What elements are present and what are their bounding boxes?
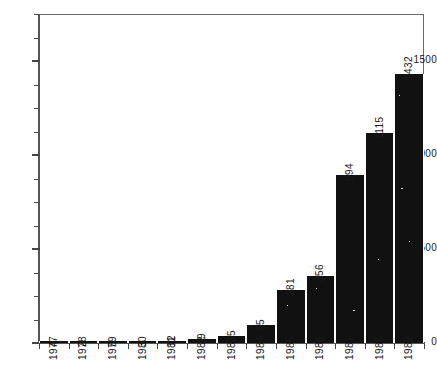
x-axis-tick: [128, 344, 129, 349]
bar-value-label: 281: [286, 278, 296, 296]
bar: [394, 74, 424, 343]
bar-value-label: 356: [315, 264, 325, 282]
bar-chart: 050010001500 425312193595281356894111514…: [0, 0, 437, 390]
x-axis-tick-label: 1989: [404, 336, 414, 360]
bar: [306, 276, 336, 343]
scan-artifact: [409, 241, 410, 242]
x-axis-tick: [69, 344, 70, 349]
x-axis-tick: [335, 344, 336, 349]
x-axis-tick: [98, 344, 99, 349]
scan-artifact: [390, 132, 391, 133]
x-axis-tick-label: 1982: [197, 336, 207, 360]
bar-value-label: 95: [256, 319, 266, 331]
bar: [335, 175, 365, 343]
x-axis-tick: [424, 344, 425, 349]
scan-artifact: [316, 288, 317, 289]
bar: [365, 133, 395, 343]
scan-artifact: [363, 96, 364, 98]
x-axis-tick: [394, 344, 395, 349]
x-axis-tick: [157, 344, 158, 349]
x-axis-tick-label: 1979: [108, 336, 118, 360]
scan-artifact: [353, 310, 355, 311]
x-axis-tick-label: 1984: [256, 336, 266, 360]
bar-value-label: 894: [345, 163, 355, 181]
x-axis-tick-label: 1983: [227, 336, 237, 360]
scan-artifact: [399, 95, 400, 96]
bar-value-label: 1115: [375, 117, 385, 139]
bars-layer: 42531219359528135689411151432: [0, 0, 437, 390]
x-axis-tick: [246, 344, 247, 349]
scan-artifact: [287, 305, 288, 306]
scan-artifact: [343, 120, 345, 121]
x-axis-tick: [306, 344, 307, 349]
x-axis-tick-label: 1981: [167, 336, 177, 360]
scan-artifact: [401, 188, 403, 189]
x-axis-tick-label: 1988: [375, 336, 385, 360]
x-axis-tick: [276, 344, 277, 349]
scan-artifact: [352, 171, 353, 172]
x-axis-tick-label: 1978: [78, 336, 88, 360]
x-axis-tick: [39, 344, 40, 349]
x-axis-tick-label: 1980: [138, 336, 148, 360]
x-axis-tick-label: 1987: [345, 336, 355, 360]
x-axis-tick-label: 1977: [49, 336, 59, 360]
x-axis-tick: [365, 344, 366, 349]
x-axis-tick-label: 1986: [315, 336, 325, 360]
bar-value-label: 1432: [404, 56, 414, 80]
x-axis-tick: [217, 344, 218, 349]
x-axis-tick-label: 1985: [286, 336, 296, 360]
scan-artifact: [378, 259, 379, 260]
scan-artifact: [329, 213, 331, 214]
x-axis-tick: [187, 344, 188, 349]
